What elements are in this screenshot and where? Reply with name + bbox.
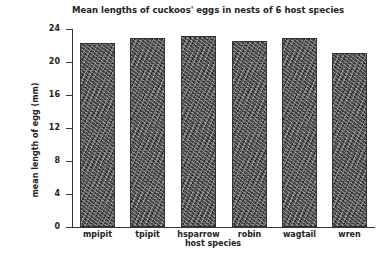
x-tick-label: hsparrow [174, 230, 224, 239]
scan-artifact [318, 8, 320, 13]
y-tick-label: 12 [30, 124, 60, 132]
bar-hsparrow [181, 36, 216, 227]
y-tick [66, 194, 72, 195]
y-tick-label: 20 [30, 58, 60, 66]
y-tick [66, 227, 72, 228]
y-tick-label: 24 [30, 25, 60, 33]
y-tick-label: 0 [30, 223, 60, 231]
x-tick-label: mpipit [73, 230, 123, 239]
x-tick-label: wagtail [275, 230, 325, 239]
y-axis-line [72, 29, 73, 227]
x-tick-label: wren [325, 230, 375, 239]
x-tick-label: robin [225, 230, 275, 239]
y-axis-label: mean length of egg (mm) [31, 83, 40, 198]
x-axis-label: host species [173, 239, 253, 248]
y-tick-label: 16 [30, 91, 60, 99]
bar-wren [332, 53, 367, 227]
bar-robin [232, 41, 267, 227]
y-tick [66, 29, 72, 30]
bar-mpipit [80, 43, 115, 227]
x-tick-label: tpipit [123, 230, 173, 239]
y-tick-label: 4 [30, 190, 60, 198]
x-axis-line [66, 227, 375, 228]
y-tick-label: 8 [30, 157, 60, 165]
chart-title: Mean lengths of cuckoos' eggs in nests o… [72, 5, 344, 15]
bar-tpipit [130, 38, 165, 227]
bar-wagtail [282, 38, 317, 227]
y-tick [66, 62, 72, 63]
y-tick [66, 95, 72, 96]
y-tick [66, 128, 72, 129]
y-tick [66, 161, 72, 162]
